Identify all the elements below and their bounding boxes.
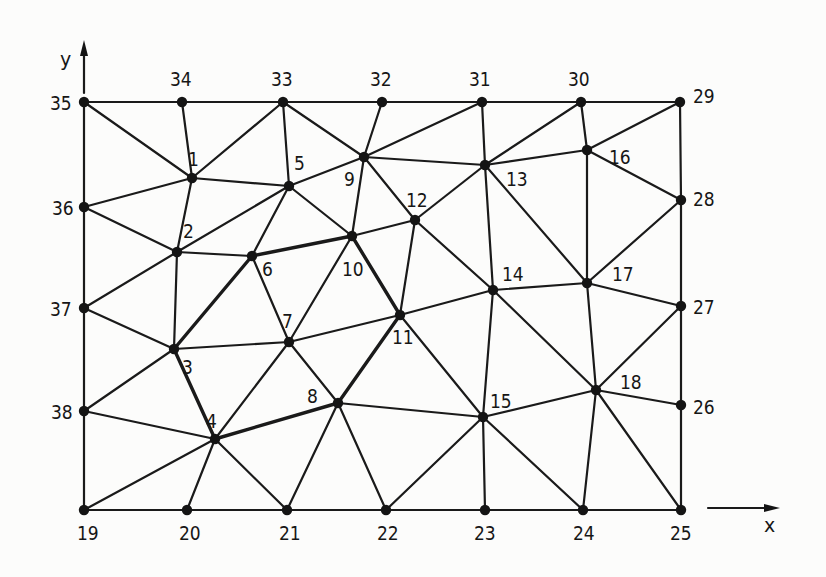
mesh-edge [386,417,483,510]
mesh-edge [283,102,289,186]
mesh-node-dot-icon [182,505,192,515]
node-label: 27 [693,296,715,318]
node-label: 15 [490,390,512,412]
mesh-figure: 1234567891011121314151617181920212223242… [0,0,826,577]
mesh-edge [352,220,415,236]
node-label: 18 [620,371,642,393]
mesh-edge [587,283,596,390]
node-label: 20 [179,522,201,544]
node-label: 26 [693,396,715,418]
mesh-node-dot-icon [576,97,586,107]
mesh-node-dot-icon [488,285,498,295]
node-label: 14 [502,263,524,285]
node-label: 33 [271,68,293,90]
node-label: 2 [183,220,194,242]
mesh-edge [174,342,289,349]
mesh-edge [215,342,289,439]
mesh-edges [84,102,681,510]
node-label: 35 [50,92,72,114]
node-label: 23 [474,522,496,544]
mesh-edge [587,283,681,306]
node-label: 34 [170,68,192,90]
node-label: 6 [262,258,273,280]
mesh-edge [415,220,493,290]
mesh-node-dot-icon [333,398,343,408]
mesh-node-dot-icon [79,97,89,107]
node-label: 8 [307,385,318,407]
mesh-node-dot-icon [187,173,197,183]
node-label: 13 [506,168,528,190]
mesh-edge [287,403,338,510]
x-axis-label: x [764,514,775,536]
node-label: 10 [342,258,364,280]
mesh-node-dot-icon [676,195,686,205]
mesh-edge [583,390,596,510]
mesh-node-dot-icon [480,505,490,515]
mesh-node-dot-icon [381,505,391,515]
node-label: 32 [370,68,392,90]
mesh-edge [84,252,177,308]
mesh-node-dot-icon [676,400,686,410]
mesh-edge [587,102,680,150]
mesh-edge [289,236,352,342]
mesh-node-dot-icon [210,434,220,444]
mesh-edge [215,403,338,439]
mesh-node-dot-icon [172,247,182,257]
mesh-node-dot-icon [359,152,369,162]
mesh-node-dot-icon [477,97,487,107]
node-label: 16 [609,146,631,168]
node-label: 31 [469,68,491,90]
mesh-node-dot-icon [79,202,89,212]
node-label: 28 [693,188,715,210]
node-label: 5 [294,152,305,174]
mesh-node-dot-icon [582,145,592,155]
mesh-edge [400,220,415,315]
mesh-nodes [79,97,686,515]
mesh-node-dot-icon [284,181,294,191]
mesh-node-dot-icon [676,505,686,515]
mesh-edge [596,390,681,510]
mesh-node-dot-icon [79,505,89,515]
node-label: 25 [670,522,692,544]
node-label: 24 [573,522,595,544]
mesh-edge [84,102,192,178]
mesh-edge [283,102,364,157]
triangular-mesh-diagram: 1234567891011121314151617181920212223242… [0,0,826,577]
mesh-node-dot-icon [675,97,685,107]
mesh-node-dot-icon [284,337,294,347]
mesh-edge [400,290,493,315]
mesh-edge [215,439,287,510]
mesh-node-dot-icon [282,505,292,515]
mesh-edge [483,417,485,510]
mesh-edge [364,102,482,157]
mesh-node-dot-icon [79,406,89,416]
coordinate-axes: y x [60,40,780,536]
y-axis-arrowhead-icon [80,40,88,56]
mesh-edge [174,252,177,349]
mesh-edge [680,102,681,200]
node-label: 37 [50,298,72,320]
mesh-edge [84,308,174,349]
y-axis-label: y [60,48,71,70]
node-label: 9 [344,168,355,190]
mesh-node-dot-icon [676,301,686,311]
mesh-edge [177,252,252,256]
mesh-node-dot-icon [278,97,288,107]
mesh-edge [338,403,483,417]
mesh-node-dot-icon [247,251,257,261]
mesh-edge [483,417,583,510]
node-label: 3 [182,356,193,378]
node-label: 30 [568,68,590,90]
node-label: 19 [77,522,99,544]
node-label: 21 [279,522,301,544]
mesh-node-dot-icon [480,160,490,170]
node-label: 36 [52,197,74,219]
mesh-edge [587,150,681,200]
mesh-edge [192,178,289,186]
mesh-edge [84,178,192,207]
mesh-edge [84,411,215,439]
node-label: 38 [51,401,73,423]
node-label: 12 [406,189,428,211]
mesh-edge [485,165,493,290]
mesh-node-dot-icon [410,215,420,225]
